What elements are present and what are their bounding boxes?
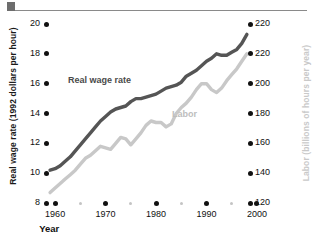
x-axis-title: Year — [39, 223, 59, 234]
y-tick-dot-right — [248, 51, 253, 56]
y-tick-label-left: 18 — [18, 48, 40, 58]
y-tick-dot-left — [44, 171, 49, 176]
series-label-labor: Labor — [172, 109, 197, 119]
y-tick-label-right: 180 — [255, 108, 281, 118]
x-tick-label: 1970 — [86, 209, 126, 219]
x-tick-label: 1980 — [136, 209, 176, 219]
y-tick-label-left: 8 — [18, 197, 40, 207]
x-tick-label: 1990 — [187, 209, 227, 219]
y-tick-dot-left — [44, 111, 49, 116]
y-tick-label-left: 20 — [18, 18, 40, 28]
x-tick-dot — [103, 201, 108, 206]
y-tick-dot-left — [44, 51, 49, 56]
y-tick-dot-left — [44, 22, 49, 27]
x-tick-dot — [154, 201, 159, 206]
x-tick-dot-minor — [129, 202, 132, 205]
x-tick-label: 2000 — [237, 209, 277, 219]
chart-figure: Real wage rate (1992 dollars per hour) L… — [0, 0, 314, 244]
y-tick-label-left: 16 — [18, 78, 40, 88]
x-tick-dot-minor — [180, 202, 183, 205]
plot-area — [0, 0, 314, 244]
y-tick-dot-right — [248, 81, 253, 86]
x-tick-dot — [204, 201, 209, 206]
y-tick-dot-right — [248, 201, 253, 206]
y-tick-dot-right — [248, 22, 253, 27]
y-axis-title-right: Labor (billions of hours per year) — [301, 16, 311, 210]
series-label-real-wage-rate: Real wage rate — [68, 75, 131, 85]
y-axis-title-left: Real wage rate (1992 dollars per hour) — [8, 9, 18, 203]
y-tick-label-right: 220 — [255, 48, 281, 58]
x-tick-dot-minor — [230, 202, 233, 205]
y-tick-dot-right — [248, 111, 253, 116]
x-tick-dot-minor — [79, 202, 82, 205]
y-tick-dot-right — [248, 171, 253, 176]
y-tick-dot-left — [44, 201, 49, 206]
y-tick-label-right: 220 — [255, 18, 281, 28]
y-tick-label-right: 140 — [255, 167, 281, 177]
y-tick-label-left: 14 — [18, 108, 40, 118]
y-tick-label-right: 160 — [255, 137, 281, 147]
y-tick-dot-left — [44, 141, 49, 146]
series-line-real-wage-rate — [50, 34, 247, 170]
y-tick-label-right: 200 — [255, 78, 281, 88]
x-tick-dot — [53, 201, 58, 206]
y-tick-dot-right — [248, 141, 253, 146]
y-tick-label-left: 12 — [18, 137, 40, 147]
x-tick-label: 1960 — [35, 209, 75, 219]
y-tick-label-left: 10 — [18, 167, 40, 177]
y-tick-dot-left — [44, 81, 49, 86]
